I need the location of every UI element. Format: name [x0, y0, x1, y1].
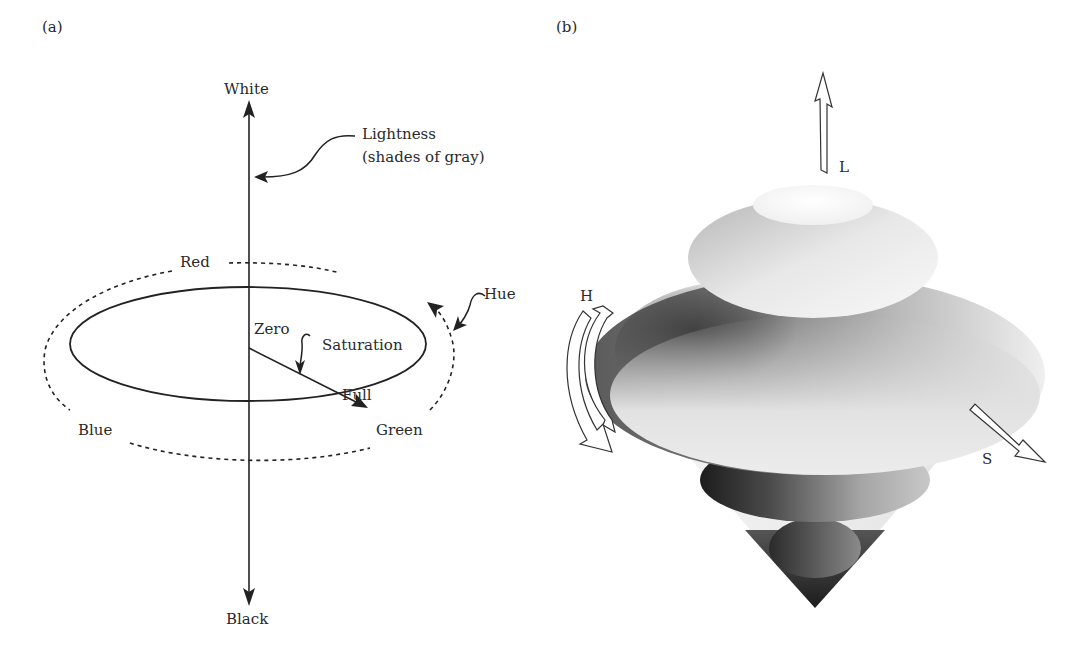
hue-blue-label: Blue [78, 423, 112, 438]
black-label: Black [226, 612, 268, 627]
panel-b-label: (b) [556, 20, 577, 35]
white-label: White [224, 82, 269, 97]
panel-b-hsl-3d-model: (b) L H S [545, 0, 1089, 664]
hue-arrow-head-icon [427, 302, 444, 318]
hue-pointer-curve [458, 293, 485, 326]
middle-disc-front [610, 315, 1040, 475]
top-disc [753, 185, 873, 225]
hue-dashed-arc-top [229, 263, 340, 273]
saturation-label: Saturation [322, 338, 403, 353]
hue-dashed-arc-right [430, 308, 454, 410]
hue-pointer-arrow-icon [453, 316, 467, 331]
hue-dashed-arc-bottom [130, 443, 370, 460]
lightness-label: Lightness [362, 127, 436, 142]
zero-saturation-label: Zero [254, 322, 290, 337]
panel-a-hsl-schematic: (a) White Lightness (shades of gray) Red… [0, 0, 545, 664]
lightness-arrow-icon [815, 73, 832, 173]
hue-red-label: Red [180, 255, 210, 270]
hue-arrow-label: H [580, 289, 593, 304]
small-disc [769, 518, 861, 578]
lightness-pointer-curve [262, 136, 355, 177]
saturation-arrow-label: S [982, 452, 992, 467]
hue-dashed-arc-left [44, 271, 172, 410]
hsl-3d-cone-drawing [545, 0, 1089, 664]
panel-a-label: (a) [42, 20, 63, 35]
full-saturation-label: Full [342, 388, 372, 403]
hue-label: Hue [484, 287, 516, 302]
hue-green-label: Green [376, 423, 423, 438]
lightness-sublabel: (shades of gray) [362, 150, 485, 165]
lightness-arrow-label: L [839, 160, 849, 175]
